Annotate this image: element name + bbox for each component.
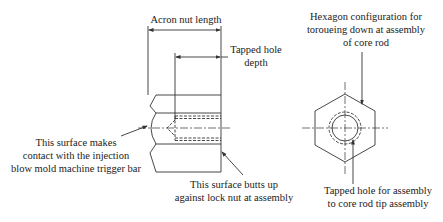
hex-end-view: [302, 82, 388, 174]
nut-side-view: [138, 95, 232, 172]
tapped-hole-line2: to core rod tip assembly: [318, 197, 438, 210]
contact-line1: This surface makes: [8, 136, 144, 149]
butts-line1: This surface butts up: [166, 178, 302, 191]
tapped-hole-label: Tapped hole for assembly to core rod tip…: [318, 184, 438, 210]
butts-surface-label: This surface butts up against lock nut a…: [166, 178, 302, 204]
tapped-depth-line2: depth: [228, 56, 284, 69]
tapped-depth-dimension: [175, 53, 228, 120]
tapped-depth-line1: Tapped hole: [228, 43, 284, 56]
tapped-hole-line1: Tapped hole for assembly: [318, 184, 438, 197]
nut-length-label: Acron nut length: [148, 13, 224, 26]
nut-length-text: Acron nut length: [150, 14, 221, 25]
hex-config-label: Hexagon configuration for toroueing down…: [306, 10, 426, 49]
butts-line2: against lock nut at assembly: [166, 191, 302, 204]
hex-line2: toroueing down at assembly: [306, 23, 426, 36]
nut-length-dimension: [148, 26, 221, 172]
contact-leader: [121, 126, 147, 136]
contact-line3: blow mold machine trigger bar: [8, 162, 144, 175]
contact-line2: contact with the injection: [8, 149, 144, 162]
hex-line3: of core rod: [306, 36, 426, 49]
hex-line1: Hexagon configuration for: [306, 10, 426, 23]
contact-surface-label: This surface makes contact with the inje…: [8, 136, 144, 175]
butts-leader: [222, 152, 243, 175]
tapped-depth-label: Tapped hole depth: [228, 43, 284, 69]
